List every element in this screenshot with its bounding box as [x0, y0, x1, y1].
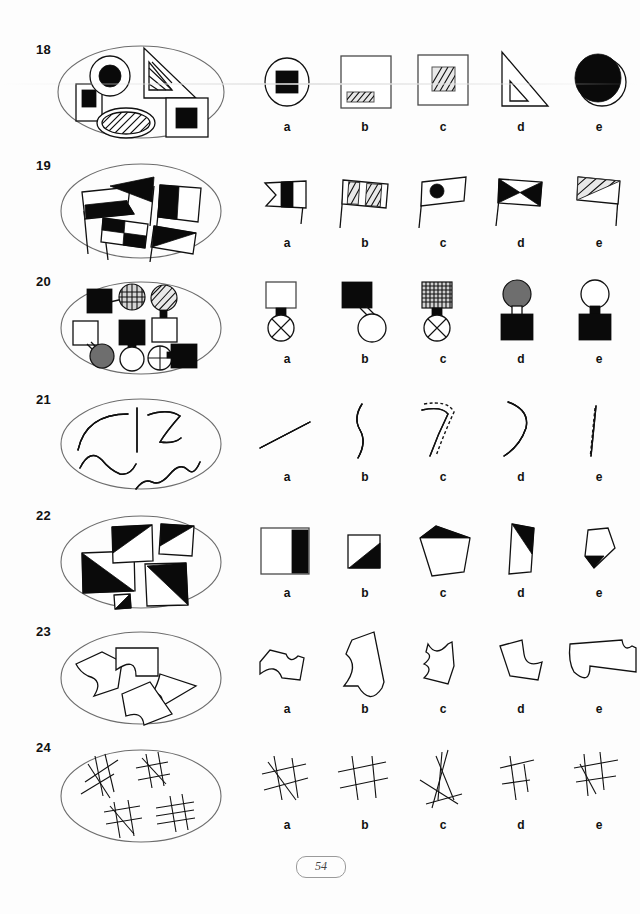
option-letter: a	[248, 586, 326, 600]
option-22-d[interactable]: d	[482, 506, 560, 614]
options-19: a b	[248, 156, 640, 264]
option-23-c[interactable]: c	[404, 622, 482, 730]
option-art	[248, 272, 326, 352]
option-letter: d	[482, 236, 560, 250]
option-art	[404, 390, 482, 470]
option-20-e[interactable]: e	[560, 272, 638, 380]
option-art	[482, 156, 560, 236]
option-letter: a	[248, 236, 326, 250]
option-art	[482, 40, 560, 120]
option-letter: a	[248, 818, 326, 832]
option-letter: c	[404, 586, 482, 600]
option-23-e[interactable]: e	[560, 622, 638, 730]
option-art	[482, 390, 560, 470]
option-18-a[interactable]: a	[248, 40, 326, 148]
option-19-b[interactable]: b	[326, 156, 404, 264]
option-20-a[interactable]: a	[248, 272, 326, 380]
option-letter: a	[248, 352, 326, 366]
option-24-c[interactable]: c	[404, 738, 482, 846]
option-art	[326, 738, 404, 818]
option-22-e[interactable]: e	[560, 506, 638, 614]
option-art	[248, 506, 326, 586]
option-21-d[interactable]: d	[482, 390, 560, 498]
option-24-e[interactable]: e	[560, 738, 638, 846]
option-art	[560, 272, 638, 352]
question-row-20: 20	[0, 266, 640, 384]
option-art	[326, 506, 404, 586]
option-letter: b	[326, 818, 404, 832]
option-letter: d	[482, 352, 560, 366]
option-letter: d	[482, 702, 560, 716]
stimulus-set-22	[48, 506, 238, 614]
option-art	[404, 272, 482, 352]
option-18-c[interactable]: c	[404, 40, 482, 148]
option-art	[482, 506, 560, 586]
option-art	[248, 156, 326, 236]
option-art	[248, 738, 326, 818]
option-23-b[interactable]: b	[326, 622, 404, 730]
option-art	[482, 272, 560, 352]
option-19-d[interactable]: d	[482, 156, 560, 264]
option-19-e[interactable]: e	[560, 156, 638, 264]
option-letter: e	[560, 120, 638, 134]
options-23: a b c	[248, 622, 640, 730]
option-19-c[interactable]: c	[404, 156, 482, 264]
stimulus-set-23	[48, 622, 238, 730]
option-18-b[interactable]: b	[326, 40, 404, 148]
option-22-b[interactable]: b	[326, 506, 404, 614]
option-letter: b	[326, 702, 404, 716]
option-20-d[interactable]: d	[482, 272, 560, 380]
option-art	[560, 40, 638, 120]
options-24: a b	[248, 738, 640, 846]
option-letter: c	[404, 352, 482, 366]
option-21-b[interactable]: b	[326, 390, 404, 498]
option-23-d[interactable]: d	[482, 622, 560, 730]
stimulus-set-20	[48, 272, 238, 380]
stimulus-set-18	[48, 40, 238, 148]
option-letter: c	[404, 818, 482, 832]
option-art	[326, 40, 404, 120]
option-art	[560, 622, 638, 702]
stimulus-set-24	[48, 738, 238, 846]
option-letter: a	[248, 120, 326, 134]
options-21: a b	[248, 390, 640, 498]
option-24-b[interactable]: b	[326, 738, 404, 846]
option-art	[404, 506, 482, 586]
option-21-a[interactable]: a	[248, 390, 326, 498]
option-19-a[interactable]: a	[248, 156, 326, 264]
option-20-c[interactable]: c	[404, 272, 482, 380]
option-letter: c	[404, 120, 482, 134]
option-art	[560, 738, 638, 818]
question-row-24: 24	[0, 732, 640, 850]
question-row-18: 18	[0, 34, 640, 152]
option-24-a[interactable]: a	[248, 738, 326, 846]
option-art	[482, 738, 560, 818]
option-22-a[interactable]: a	[248, 506, 326, 614]
question-row-22: 22	[0, 500, 640, 618]
option-art	[326, 622, 404, 702]
option-18-e[interactable]: e	[560, 40, 638, 148]
option-art	[560, 156, 638, 236]
option-art	[248, 40, 326, 120]
option-letter: d	[482, 586, 560, 600]
option-21-e[interactable]: e	[560, 390, 638, 498]
option-23-a[interactable]: a	[248, 622, 326, 730]
option-20-b[interactable]: b	[326, 272, 404, 380]
option-24-d[interactable]: d	[482, 738, 560, 846]
option-letter: b	[326, 120, 404, 134]
options-18: a b	[248, 40, 640, 148]
option-21-c[interactable]: c	[404, 390, 482, 498]
option-letter: c	[404, 702, 482, 716]
test-page: 18	[0, 0, 640, 914]
option-letter: d	[482, 818, 560, 832]
option-letter: a	[248, 702, 326, 716]
option-letter: c	[404, 470, 482, 484]
question-row-19: 19	[0, 150, 640, 268]
option-22-c[interactable]: c	[404, 506, 482, 614]
option-18-d[interactable]: d	[482, 40, 560, 148]
option-art	[404, 622, 482, 702]
option-art	[404, 738, 482, 818]
page-number: 54	[296, 856, 346, 878]
option-art	[248, 390, 326, 470]
question-row-21: 21	[0, 384, 640, 502]
